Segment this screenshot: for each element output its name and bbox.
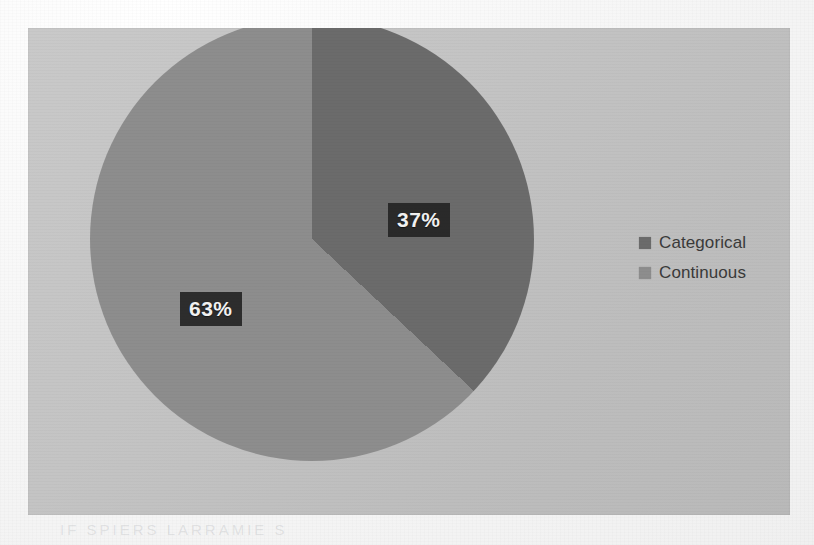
pie-label-categorical: 37% (388, 203, 450, 237)
legend-item-continuous[interactable]: Continuous (639, 258, 779, 288)
legend-item-categorical[interactable]: Categorical (639, 228, 779, 258)
chart-plot-area: 37% 63% Categorical Continuous (28, 28, 790, 515)
pie-slices (90, 28, 534, 461)
legend-swatch-categorical (639, 237, 651, 249)
page-bleed-through-text: IF SPIERS LARRAMIE S (60, 521, 288, 538)
legend-swatch-continuous (639, 267, 651, 279)
legend-label-categorical: Categorical (659, 233, 746, 253)
pie-chart (90, 28, 534, 461)
legend-label-continuous: Continuous (659, 263, 746, 283)
chart-legend: Categorical Continuous (639, 228, 779, 288)
pie-label-continuous: 63% (180, 292, 242, 326)
